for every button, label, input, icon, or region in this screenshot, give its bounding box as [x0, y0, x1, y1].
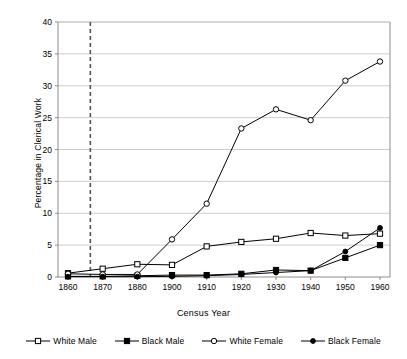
legend-label: Black Male	[142, 336, 185, 346]
legend-label: White Female	[229, 336, 283, 346]
legend-label: White Male	[53, 336, 97, 346]
chart-legend: White MaleBlack MaleWhite FemaleBlack Fe…	[0, 330, 407, 352]
series-black-female	[66, 226, 383, 280]
open-square-icon	[26, 336, 50, 346]
filled-square-icon	[115, 336, 139, 346]
series-black-male	[65, 243, 382, 279]
open-circle-icon	[202, 336, 226, 346]
chart-figure: Percentage in Clerical Work Census Year …	[0, 0, 407, 359]
series-white-male	[65, 230, 382, 275]
legend-item-black-female[interactable]: Black Female	[301, 336, 381, 346]
filled-circle-icon	[301, 336, 325, 346]
plot-area	[0, 0, 407, 359]
series-layer	[65, 59, 382, 279]
legend-item-white-male[interactable]: White Male	[26, 336, 97, 346]
axis-frame	[55, 22, 390, 280]
legend-label: Black Female	[328, 336, 381, 346]
gridlines	[58, 22, 390, 277]
legend-item-black-male[interactable]: Black Male	[115, 336, 185, 346]
legend-item-white-female[interactable]: White Female	[202, 336, 283, 346]
